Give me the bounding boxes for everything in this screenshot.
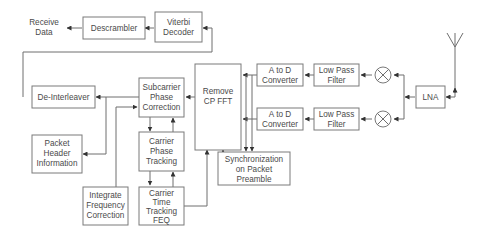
integrate-label-2: Frequency: [86, 201, 126, 210]
block-lpf-bottom: Low Pass Filter: [314, 108, 359, 130]
sync-label-2: on Packet: [236, 165, 273, 174]
integrate-label-3: Correction: [87, 211, 125, 220]
lpf-bottom-label-1: Low Pass: [319, 110, 355, 119]
receiver-block-diagram: Descrambler Viterbi Decoder Receive Data…: [0, 0, 483, 238]
lna-label: LNA: [423, 93, 439, 102]
lpf-top-label-1: Low Pass: [319, 66, 355, 75]
block-packet-header-information: Packet Header Information: [32, 135, 82, 173]
carrier-time-label-2: Time: [153, 198, 171, 207]
lpf-top-label-2: Filter: [327, 76, 345, 85]
receive-data-label-1: Receive: [29, 18, 59, 27]
adc-top-label-2: Converter: [262, 76, 298, 85]
block-remove-cp-fft: Remove CP FFT: [195, 64, 241, 150]
carrier-phase-label-2: Phase: [150, 147, 174, 156]
block-carrier-phase-tracking: Carrier Phase Tracking: [139, 132, 184, 171]
block-lpf-top: Low Pass Filter: [314, 64, 359, 86]
deinterleaver-label: De-Interleaver: [38, 93, 90, 102]
adc-bottom-label-1: A to D: [269, 110, 291, 119]
block-adc-bottom: A to D Converter: [257, 108, 303, 130]
block-carrier-time-tracking-feq: Carrier Time Tracking FEQ: [139, 187, 184, 225]
packet-header-label-3: Information: [37, 159, 78, 168]
receive-data-label-2: Data: [35, 28, 53, 37]
subcarrier-label-1: Subcarrier: [143, 83, 181, 92]
carrier-time-label-1: Carrier: [149, 189, 174, 198]
block-viterbi-decoder: Viterbi Decoder: [155, 12, 202, 42]
carrier-phase-label-1: Carrier: [149, 137, 174, 146]
lpf-bottom-label-2: Filter: [327, 120, 345, 129]
arrow-integrate-to-subcarrier: [116, 107, 137, 187]
block-adc-top: A to D Converter: [257, 64, 303, 86]
viterbi-label-2: Decoder: [163, 28, 194, 37]
block-deinterleaver: De-Interleaver: [32, 86, 95, 108]
descrambler-label: Descrambler: [91, 24, 138, 33]
receive-data-output: Receive Data: [29, 18, 59, 37]
block-subcarrier-phase-correction: Subcarrier Phase Correction: [139, 78, 184, 117]
carrier-time-label-3: Tracking: [146, 207, 178, 216]
antenna-icon: [447, 33, 463, 47]
adc-bottom-label-2: Converter: [262, 120, 298, 129]
subcarrier-label-3: Correction: [143, 103, 181, 112]
sync-label-1: Synchronization: [225, 155, 284, 164]
adc-top-label-1: A to D: [269, 66, 291, 75]
block-descrambler: Descrambler: [83, 17, 145, 39]
carrier-phase-label-3: Tracking: [146, 157, 178, 166]
arrow-carriertime-to-removecp: [184, 150, 207, 206]
sync-label-3: Preamble: [236, 175, 271, 184]
removecp-label-1: Remove: [203, 87, 234, 96]
subcarrier-label-2: Phase: [150, 93, 174, 102]
block-lna: LNA: [416, 86, 445, 108]
carrier-time-label-4: FEQ: [153, 216, 170, 225]
block-synchronization: Synchronization on Packet Preamble: [218, 152, 290, 185]
block-integrate-frequency-correction: Integrate Frequency Correction: [83, 187, 128, 225]
mixer-icon-top: [375, 67, 391, 83]
packet-header-label-1: Packet: [44, 139, 70, 148]
mixer-icon-bottom: [375, 111, 391, 127]
removecp-label-2: CP FFT: [204, 97, 233, 106]
arrow-antenna-to-lna: [446, 47, 455, 97]
integrate-label-1: Integrate: [89, 191, 122, 200]
packet-header-label-2: Header: [44, 149, 71, 158]
viterbi-label-1: Viterbi: [167, 18, 190, 27]
